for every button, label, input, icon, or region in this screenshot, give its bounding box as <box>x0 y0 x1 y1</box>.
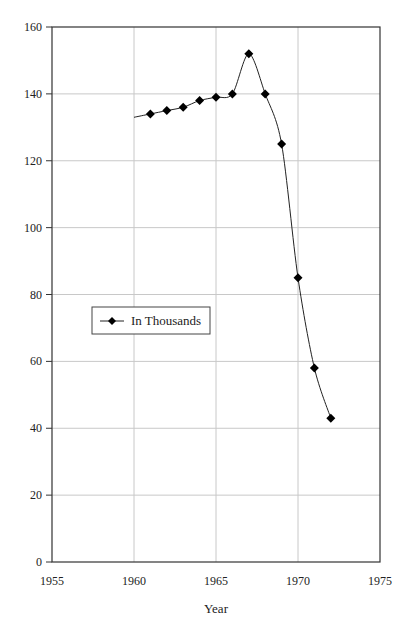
diamond-marker-icon <box>146 109 155 118</box>
x-axis-title: Year <box>204 601 229 616</box>
diamond-marker-icon <box>179 103 188 112</box>
x-tick-label: 1970 <box>286 574 310 588</box>
diamond-marker-icon <box>310 364 319 373</box>
diamond-marker-icon <box>277 140 286 149</box>
series-line <box>134 54 331 418</box>
y-tick-label: 40 <box>30 421 42 435</box>
x-tick-label: 1955 <box>40 574 64 588</box>
y-tick-label: 0 <box>36 555 42 569</box>
diamond-marker-icon <box>162 106 171 115</box>
diamond-marker-icon <box>195 96 204 105</box>
y-tick-label: 160 <box>24 20 42 34</box>
y-tick-label: 140 <box>24 87 42 101</box>
diamond-marker-icon <box>326 414 335 423</box>
y-tick-label: 80 <box>30 288 42 302</box>
x-tick-label: 1975 <box>368 574 392 588</box>
x-axis-ticks: 19551960196519701975 <box>40 574 392 588</box>
y-tick-label: 100 <box>24 221 42 235</box>
diamond-marker-icon <box>294 273 303 282</box>
y-axis-ticks: 020406080100120140160 <box>24 20 52 569</box>
diamond-marker-icon <box>261 89 270 98</box>
gridlines <box>52 27 380 562</box>
legend: In Thousands <box>92 307 210 334</box>
line-chart: 020406080100120140160 195519601965197019… <box>0 0 407 631</box>
series-markers <box>146 49 335 422</box>
y-tick-label: 120 <box>24 154 42 168</box>
y-tick-label: 60 <box>30 354 42 368</box>
y-tick-label: 20 <box>30 488 42 502</box>
x-tick-label: 1960 <box>122 574 146 588</box>
legend-label: In Thousands <box>131 313 201 328</box>
x-tick-label: 1965 <box>204 574 228 588</box>
